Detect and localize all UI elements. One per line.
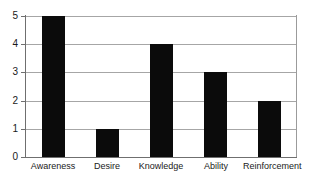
- y-tick-label-5: 5: [0, 11, 18, 21]
- x-axis-label-ability: Ability: [189, 161, 243, 172]
- x-axis-label-knowledge: Knowledge: [134, 161, 188, 172]
- x-axis-label-desire: Desire: [80, 161, 134, 172]
- bar-group: [26, 16, 297, 157]
- bar-knowledge[interactable]: [150, 44, 173, 157]
- y-tick-label-1: 1: [0, 124, 18, 134]
- y-tick-label-0: 0: [0, 152, 18, 162]
- y-tick-label-3: 3: [0, 67, 18, 77]
- bar-chart: 012345 AwarenessDesireKnowledgeAbilityRe…: [0, 0, 316, 188]
- y-tick-label-2: 2: [0, 96, 18, 106]
- x-axis-label-reinforcement: Reinforcement: [243, 161, 297, 172]
- x-axis-label-awareness: Awareness: [26, 161, 80, 172]
- bar-reinforcement[interactable]: [258, 101, 281, 157]
- bar-desire[interactable]: [96, 129, 119, 157]
- x-axis-line: [25, 157, 297, 158]
- bar-awareness[interactable]: [42, 16, 65, 157]
- bar-ability[interactable]: [204, 72, 227, 157]
- y-tick-label-4: 4: [0, 39, 18, 49]
